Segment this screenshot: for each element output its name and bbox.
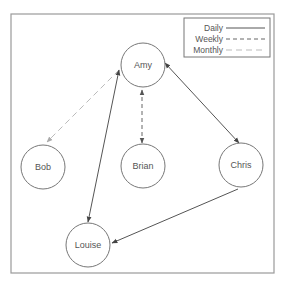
legend-label-daily: Daily (204, 23, 224, 33)
edge-amy-chris (165, 63, 239, 143)
node-amy: Amy (121, 43, 165, 87)
node-brian: Brian (121, 144, 165, 188)
nodes-group: AmyBobBrianChrisLouise (21, 43, 263, 267)
node-chris: Chris (219, 143, 263, 187)
node-label: Chris (230, 160, 252, 170)
node-bob: Bob (21, 145, 65, 189)
node-label: Brian (132, 161, 153, 171)
node-label: Louise (75, 240, 102, 250)
node-label: Amy (134, 60, 153, 70)
legend-label-monthly: Monthly (193, 45, 224, 55)
legend: DailyWeeklyMonthly (184, 18, 270, 57)
edge-chris-louise (112, 189, 238, 243)
edge-amy-louise (88, 70, 119, 222)
node-label: Bob (35, 162, 51, 172)
edge-amy-bob (47, 70, 119, 142)
legend-label-weekly: Weekly (195, 34, 223, 44)
node-louise: Louise (66, 223, 110, 267)
network-diagram: AmyBobBrianChrisLouise DailyWeeklyMonthl… (0, 0, 284, 287)
